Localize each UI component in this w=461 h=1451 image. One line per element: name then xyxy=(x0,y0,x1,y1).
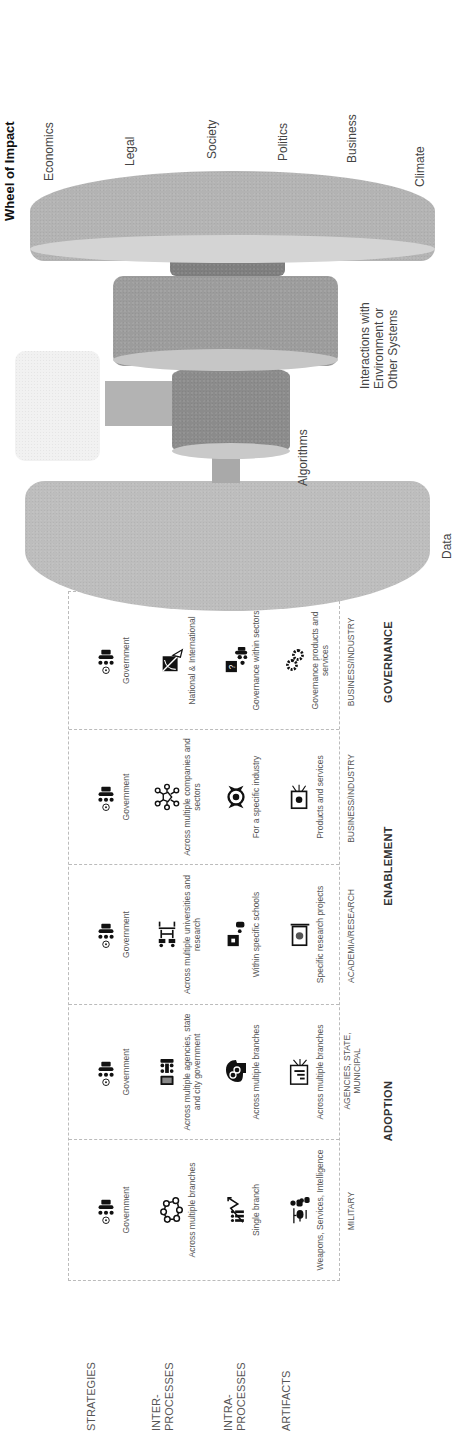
cell-text: Weapons, Services, Intelligence xyxy=(315,1146,325,1275)
government-icon xyxy=(94,1196,118,1224)
ghost-box xyxy=(15,351,100,461)
svg-text:?: ? xyxy=(227,665,237,670)
label-interactions: Interactions with Environment or Other S… xyxy=(358,302,400,389)
cell-text: Governance within sectors xyxy=(251,606,261,714)
cell-intra-process: ? Governance within sectors xyxy=(213,592,271,729)
head-gears-icon xyxy=(224,1058,248,1086)
framework-table: Government Across multiple branches Sing… xyxy=(68,591,340,1281)
growth-chart-people-icon xyxy=(224,1196,248,1224)
impact-climate: Climate xyxy=(413,146,427,187)
helicopter-soldier-icon xyxy=(288,1196,312,1224)
question-board-people-icon: ? xyxy=(224,647,248,675)
column-label-business-enablement: BUSINESS/INDUSTRY xyxy=(346,731,356,866)
cell-inter-process: National & International xyxy=(147,592,209,729)
data-disk xyxy=(25,481,430,611)
cell-artifact: Governance products and services xyxy=(273,592,339,729)
cell-inter-process: Across multiple companies and sectors xyxy=(147,730,209,864)
cell-text: Specific research projects xyxy=(315,882,325,987)
cell-text: Across multiple universities and researc… xyxy=(182,865,202,1004)
cell-artifact: Products and services xyxy=(273,730,339,864)
gears-icon xyxy=(283,647,307,675)
column-academia-research: Government Across multiple universities … xyxy=(69,865,339,1005)
cell-artifact: Specific research projects xyxy=(273,865,339,1004)
meeting-board-icon xyxy=(155,1058,179,1086)
column-label-military: MILITARY xyxy=(346,1141,356,1281)
presentation-chart-icon xyxy=(288,1058,312,1086)
column-label-agencies: AGENCIES, STATE, MUNICIPAL xyxy=(342,1021,362,1121)
hub-network-icon xyxy=(155,783,179,811)
cell-strategy: Government xyxy=(81,865,143,1004)
column-business-industry-governance: Government National & International ? Go… xyxy=(69,592,339,730)
network-nodes-icon xyxy=(160,1196,184,1224)
cell-text: Government xyxy=(121,1045,131,1100)
cell-artifact: Across multiple branches xyxy=(273,1005,339,1139)
cell-inter-process: Across multiple agencies, state and city… xyxy=(147,1005,209,1139)
group-label-governance: GOVERNANCE xyxy=(382,593,394,731)
cell-intra-process: Across multiple branches xyxy=(213,1005,271,1139)
cell-text: Across multiple agencies, state and city… xyxy=(182,1005,202,1139)
impact-economics: Economics xyxy=(42,122,56,181)
wheel-disk-face xyxy=(30,235,435,263)
group-label-enablement: ENABLEMENT xyxy=(382,796,394,936)
teacher-board-icon xyxy=(224,921,248,949)
government-icon xyxy=(94,921,118,949)
cell-strategy: Government xyxy=(81,730,143,864)
cell-inter-process: Across multiple branches xyxy=(147,1140,209,1280)
impact-legal: Legal xyxy=(123,137,137,166)
satellite-dish-icon xyxy=(160,647,184,675)
classroom-desks-icon xyxy=(155,921,179,949)
rotated-figure: STRATEGIES INTER- PROCESSES INTRA- PROCE… xyxy=(0,0,461,1451)
target-hands-icon xyxy=(224,783,248,811)
diagram-title: Wheel of Impact xyxy=(2,121,17,221)
impact-politics: Politics xyxy=(276,123,290,161)
cell-text: Single branch xyxy=(251,1180,261,1240)
impact-business: Business xyxy=(345,114,359,163)
group-label-adoption: ADOPTION xyxy=(382,1041,394,1181)
cell-strategy: Government xyxy=(81,1005,143,1139)
cell-text: For a specific industry xyxy=(251,752,261,843)
algorithms-disk-face xyxy=(172,443,290,459)
government-icon xyxy=(94,647,118,675)
cell-text: Government xyxy=(121,1183,131,1238)
label-algorithms: Algorithms xyxy=(296,429,310,486)
government-icon xyxy=(94,783,118,811)
interaction-disk-face xyxy=(113,349,338,371)
cell-text: Across multiple companies and sectors xyxy=(182,730,202,864)
row-label-artifacts: ARTIFACTS xyxy=(280,1311,293,1431)
cell-text: Across multiple branches xyxy=(315,1021,325,1124)
row-label-intra-processes: INTRA- PROCESSES xyxy=(222,1311,248,1431)
government-icon xyxy=(94,1058,118,1086)
impact-society: Society xyxy=(205,120,219,159)
cell-inter-process: Across multiple universities and researc… xyxy=(147,865,209,1004)
cell-intra-process: Within specific schools xyxy=(213,865,271,1004)
cell-text: Government xyxy=(121,907,131,962)
row-label-strategies: STRATEGIES xyxy=(85,1311,98,1431)
cell-strategy: Government xyxy=(81,592,143,729)
cell-text: Across multiple branches xyxy=(251,1021,261,1124)
cell-text: Government xyxy=(121,770,131,825)
column-military: Government Across multiple branches Sing… xyxy=(69,1140,339,1280)
cell-intra-process: For a specific industry xyxy=(213,730,271,864)
cell-text: Governance products and services xyxy=(310,592,330,729)
cell-text: Within specific schools xyxy=(251,888,261,982)
label-data: Data xyxy=(440,534,454,559)
cell-strategy: Government xyxy=(81,1140,143,1280)
cell-text: Across multiple branches xyxy=(187,1159,197,1262)
column-label-academia: ACADEMIA/RESEARCH xyxy=(346,866,356,1006)
column-agencies-state-municipal: Government Across multiple agencies, sta… xyxy=(69,1005,339,1140)
cell-artifact: Weapons, Services, Intelligence xyxy=(273,1140,339,1280)
row-label-inter-processes: INTER- PROCESSES xyxy=(150,1311,176,1431)
cell-text: National & International xyxy=(187,612,197,708)
cell-intra-process: Single branch xyxy=(213,1140,271,1280)
product-screen-icon xyxy=(288,783,312,811)
cell-text: Government xyxy=(121,633,131,688)
laptop-globe-icon xyxy=(288,921,312,949)
column-business-industry-enablement: Government Across multiple companies and… xyxy=(69,730,339,865)
cell-text: Products and services xyxy=(315,751,325,843)
connector-bar xyxy=(105,381,175,426)
column-label-business-governance: BUSINESS/INDUSTRY xyxy=(346,593,356,731)
